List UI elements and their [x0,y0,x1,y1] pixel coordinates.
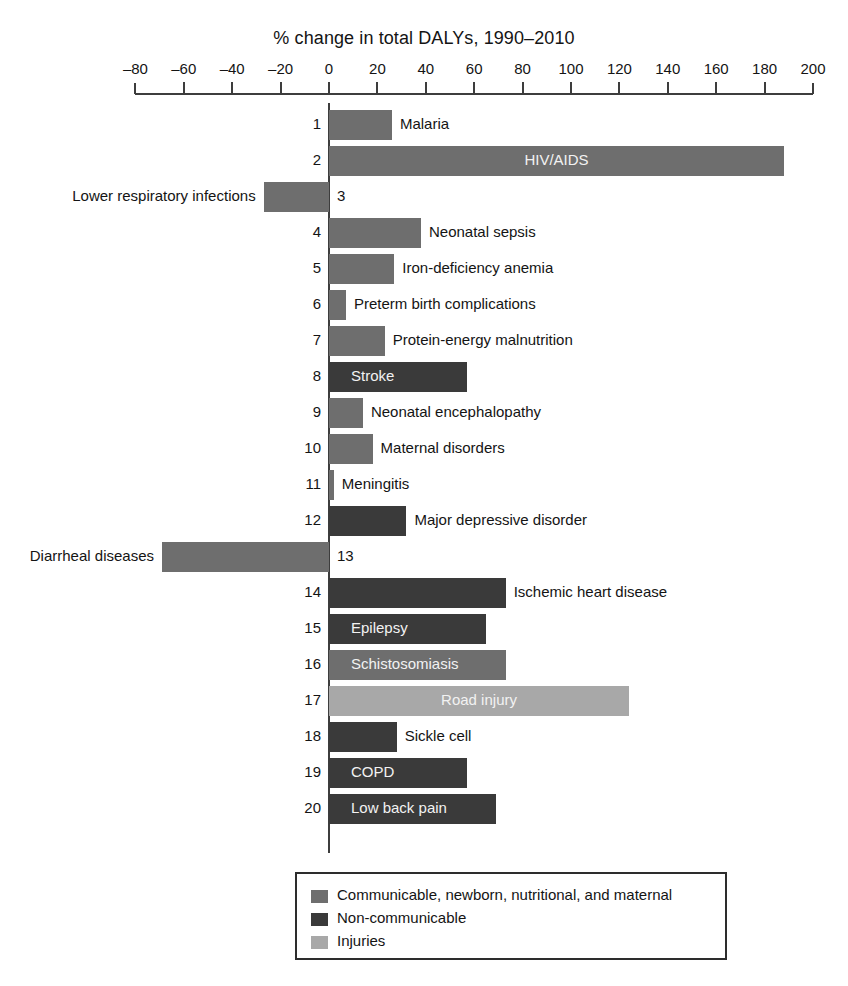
bar-row: 8Stroke [0,359,848,395]
legend-swatch-noncommunicable [311,913,328,926]
bar-row: 16Schistosomiasis [0,647,848,683]
bar-noncommunicable[interactable] [329,722,397,752]
x-tick-mark [183,82,185,94]
x-tick-label: 180 [752,60,777,77]
x-tick-mark [715,82,717,94]
bar-label: Malaria [400,115,449,132]
x-tick-label: 80 [514,60,531,77]
bar-row: 18Sickle cell [0,719,848,755]
x-tick-mark [667,82,669,94]
bar-rank-number: 11 [281,475,321,492]
bar-label: Maternal disorders [381,439,505,456]
bar-rank-number: 1 [281,115,321,132]
bar-rank-number: 15 [281,619,321,636]
bar-row: 15Epilepsy [0,611,848,647]
x-tick-mark [473,82,475,94]
bar-label: Road injury [329,691,629,708]
x-tick-label: 0 [325,60,333,77]
x-tick-label: 20 [369,60,386,77]
x-tick-mark [231,82,233,94]
bar-communicable[interactable] [329,110,392,140]
x-tick-mark [764,82,766,94]
bar-communicable[interactable] [329,254,394,284]
bar-row: 11Meningitis [0,467,848,503]
x-tick-mark [376,82,378,94]
legend-label: Injuries [337,932,385,949]
plot-area: 1Malaria2HIV/AIDS3Lower respiratory infe… [0,103,848,853]
bar-rank-number: 3 [337,187,377,204]
bar-label: Sickle cell [405,727,472,744]
x-tick-label: –40 [220,60,245,77]
bar-row: 2HIV/AIDS [0,143,848,179]
bar-row: 10Maternal disorders [0,431,848,467]
bar-label: Stroke [351,367,394,384]
bar-label: Meningitis [342,475,410,492]
bar-communicable[interactable] [162,542,329,572]
bar-label: Diarrheal diseases [0,547,154,564]
bar-communicable[interactable] [329,326,385,356]
bar-rank-number: 7 [281,331,321,348]
x-tick-label: 140 [655,60,680,77]
x-tick-mark [134,83,136,94]
bar-row: 6Preterm birth complications [0,287,848,323]
dalys-change-bar-chart: % change in total DALYs, 1990–2010 –80–6… [0,0,848,986]
bar-label: HIV/AIDS [329,151,784,168]
bar-rank-number: 9 [281,403,321,420]
bar-label: Low back pain [351,799,447,816]
bar-communicable[interactable] [329,470,334,500]
x-tick-mark [425,82,427,94]
chart-legend: Communicable, newborn, nutritional, and … [295,872,727,960]
bar-rank-number: 19 [281,763,321,780]
bar-noncommunicable[interactable] [329,578,506,608]
x-tick-mark [812,83,814,94]
bar-label: Neonatal sepsis [429,223,536,240]
bar-communicable[interactable] [329,434,373,464]
bar-label: COPD [351,763,394,780]
x-tick-mark [328,82,330,94]
x-tick-label: 160 [704,60,729,77]
x-tick-mark [570,82,572,94]
bar-rank-number: 6 [281,295,321,312]
x-tick-label: 100 [558,60,583,77]
bar-rank-number: 8 [281,367,321,384]
chart-title: % change in total DALYs, 1990–2010 [0,28,848,49]
bar-row: 9Neonatal encephalopathy [0,395,848,431]
x-tick-mark [522,82,524,94]
bar-row: 20Low back pain [0,791,848,827]
bar-label: Preterm birth complications [354,295,536,312]
bar-label: Lower respiratory infections [0,187,256,204]
x-tick-label: 200 [800,60,825,77]
bar-rank-number: 13 [337,547,377,564]
bar-row: 13Diarrheal diseases [0,539,848,575]
bar-noncommunicable[interactable] [329,506,406,536]
bar-rank-number: 4 [281,223,321,240]
bar-label: Ischemic heart disease [514,583,667,600]
bar-label: Iron-deficiency anemia [402,259,553,276]
bar-rank-number: 16 [281,655,321,672]
bar-label: Schistosomiasis [351,655,459,672]
x-tick-label: 60 [466,60,483,77]
x-axis: –80–60–40–20020406080100120140160180200 [0,60,848,104]
bar-rank-number: 20 [281,799,321,816]
bar-communicable[interactable] [329,398,363,428]
x-tick-label: –20 [268,60,293,77]
x-tick-mark [280,82,282,94]
bar-rank-number: 14 [281,583,321,600]
bar-row: 1Malaria [0,107,848,143]
legend-label: Non-communicable [337,909,466,926]
bar-noncommunicable[interactable] [329,362,467,392]
bar-row: 5Iron-deficiency anemia [0,251,848,287]
x-tick-mark [618,82,620,94]
bar-rank-number: 17 [281,691,321,708]
bar-label: Epilepsy [351,619,408,636]
bar-communicable[interactable] [264,182,329,212]
bar-row: 17Road injury [0,683,848,719]
bar-communicable[interactable] [329,290,346,320]
bar-row: 19COPD [0,755,848,791]
bar-communicable[interactable] [329,218,421,248]
x-tick-label: –80 [123,60,148,77]
bar-row: 14Ischemic heart disease [0,575,848,611]
bar-noncommunicable[interactable] [329,758,467,788]
bar-rank-number: 12 [281,511,321,528]
bar-rank-number: 2 [281,151,321,168]
